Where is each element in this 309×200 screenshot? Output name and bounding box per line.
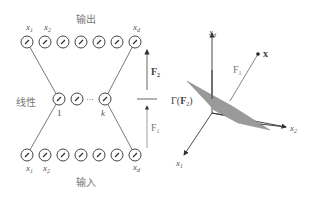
edge [105, 99, 135, 155]
node [93, 149, 105, 161]
xd-axis-label: xd [208, 27, 217, 38]
input-x1-label: x1 [25, 163, 33, 174]
input-label: 输入 [76, 176, 96, 188]
network-diagram: 输出 输入 线性 x1 x2 xd x1 x2 xd [16, 13, 160, 188]
projection-f1-label: F1 [233, 64, 242, 76]
manifold-label: Γ(F2) [171, 95, 193, 107]
manifold-plane [187, 81, 270, 130]
f1-label: F1 [151, 122, 160, 134]
node [93, 36, 105, 48]
point-x-label: x [263, 48, 268, 59]
output-x1-label: x1 [25, 22, 33, 33]
hidden-last-label: k [101, 108, 106, 118]
edge [27, 42, 59, 99]
node [39, 149, 51, 161]
node [111, 149, 123, 161]
input-x2-label: x2 [42, 163, 50, 174]
node [21, 36, 33, 48]
linear-layer-label: 线性 [16, 96, 36, 108]
projection-diagram: x F1 Γ(F2) xd x2 x1 [171, 27, 297, 169]
node [75, 36, 87, 48]
node [21, 149, 33, 161]
x2-axis-label: x2 [289, 123, 297, 134]
node [129, 36, 141, 48]
input-layer [21, 149, 141, 161]
node [53, 93, 65, 105]
hidden-ellipsis: ··· [86, 95, 94, 104]
autoencoder-diagram: 输出 输入 线性 x1 x2 xd x1 x2 xd [0, 0, 309, 200]
edge [105, 42, 135, 99]
node [75, 149, 87, 161]
node [111, 36, 123, 48]
x1-axis [184, 113, 212, 155]
node [57, 36, 69, 48]
output-x2-label: x2 [43, 22, 51, 33]
node [71, 93, 83, 105]
node [57, 149, 69, 161]
input-xd-label: xd [132, 162, 141, 173]
hidden-layer [53, 93, 111, 105]
output-layer [21, 36, 141, 48]
projection-line [230, 54, 258, 101]
node [99, 93, 111, 105]
output-xd-label: xd [132, 22, 141, 33]
x1-axis-label: x1 [175, 158, 183, 169]
node [129, 149, 141, 161]
f2-label: F2 [151, 66, 160, 78]
hidden-first-label: 1 [57, 108, 62, 118]
node [39, 36, 51, 48]
data-point [256, 52, 260, 56]
output-label: 输出 [76, 13, 96, 25]
